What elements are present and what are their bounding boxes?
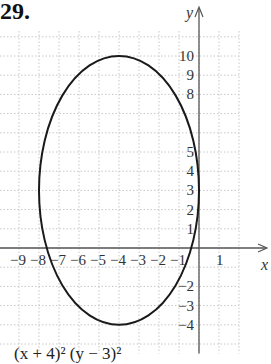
y-tick-label: 8 xyxy=(187,86,195,102)
y-tick-label: 5 xyxy=(187,144,195,160)
x-tick-label: −3 xyxy=(130,252,146,268)
y-tick-label: 3 xyxy=(187,182,195,198)
y-tick-label: −2 xyxy=(178,278,194,294)
y-tick-label: 2 xyxy=(187,202,195,218)
y-tick-label: −3 xyxy=(178,298,194,314)
x-tick-label: −6 xyxy=(70,252,86,268)
x-tick-label: −9 xyxy=(10,252,26,268)
x-tick-label: −8 xyxy=(30,252,46,268)
x-tick-label: −2 xyxy=(150,252,166,268)
equation-caption: (x + 4)² (y − 3)² xyxy=(14,344,121,364)
x-tick-label: 1 xyxy=(216,252,224,268)
y-tick-label: 9 xyxy=(187,67,195,83)
y-tick-label: 4 xyxy=(187,163,195,179)
y-tick-label: 10 xyxy=(179,48,194,64)
y-tick-label: −4 xyxy=(178,317,194,333)
x-tick-label: −5 xyxy=(90,252,106,268)
x-tick-label: −4 xyxy=(110,252,126,268)
y-tick-label: 1 xyxy=(187,221,195,237)
x-axis-label: x xyxy=(260,256,268,273)
y-axis-label: y xyxy=(184,4,194,22)
x-tick-label: −1 xyxy=(170,252,186,268)
